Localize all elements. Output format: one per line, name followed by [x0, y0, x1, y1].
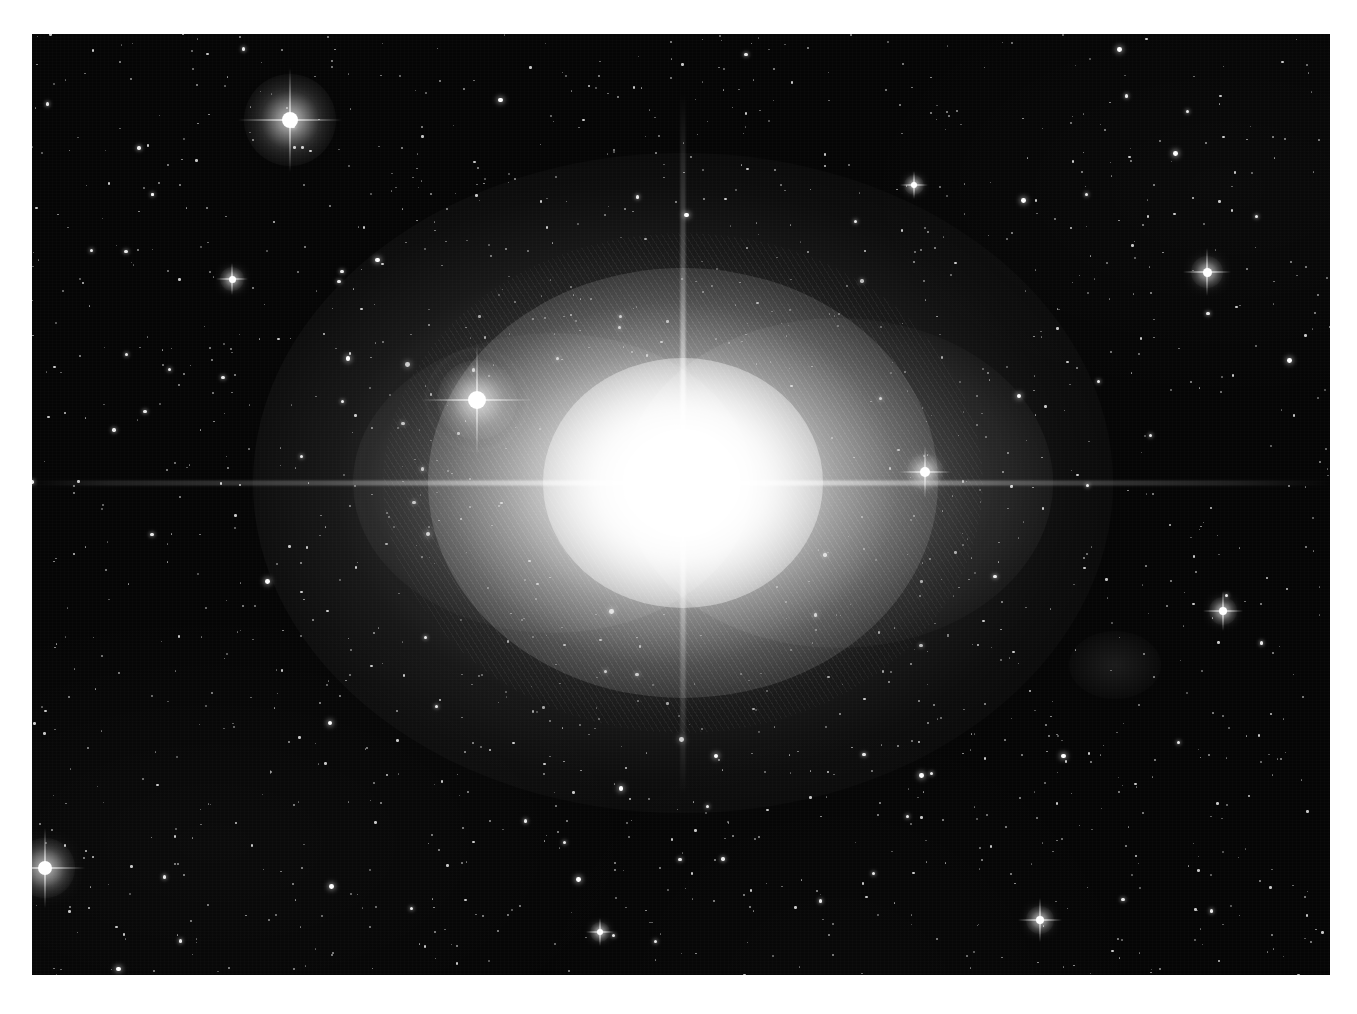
sky-plate: [32, 34, 1330, 975]
bright-star-mid-left-vertical-spike: [231, 263, 233, 295]
bright-star-far-right-horizontal-spike: [1203, 610, 1243, 612]
bright-star-far-right-glow: [1209, 597, 1237, 625]
bright-star-top-mid-vertical-spike: [913, 171, 915, 199]
bright-star-lower-left-glow: [32, 838, 75, 898]
bright-star-bottom-mid-core: [597, 929, 603, 935]
bright-star-lower-left-horizontal-spike: [32, 867, 85, 869]
bright-star-right-arm-glow: [907, 454, 943, 490]
bright-star-right-arm-vertical-spike: [924, 446, 926, 498]
bright-star-right-arm-horizontal-spike: [899, 471, 951, 473]
bright-star-right-arm-core: [920, 467, 930, 477]
bright-star-far-right-core: [1219, 607, 1227, 615]
bright-star-upper-left-glow: [244, 74, 336, 166]
bright-star-upper-right-horizontal-spike: [1183, 271, 1231, 273]
bright-star-lower-right-core: [1036, 916, 1044, 924]
bright-star-lower-right-horizontal-spike: [1018, 919, 1062, 921]
bright-star-mid-left-core: [229, 276, 236, 283]
bright-star-upper-right-glow: [1191, 256, 1223, 288]
bright-star-bottom-mid-horizontal-spike: [586, 931, 614, 933]
bright-star-lower-right-glow: [1026, 906, 1054, 934]
bright-star-mid-left-horizontal-spike: [216, 278, 248, 280]
bright-star-top-mid-horizontal-spike: [900, 184, 928, 186]
bright-star-upper-right-core: [1203, 268, 1212, 277]
bright-star-top-mid-glow: [904, 175, 924, 195]
bright-star-upper-left-horizontal-spike: [238, 119, 342, 121]
bright-star-bottom-mid-glow: [590, 922, 610, 942]
bright-star-far-right-vertical-spike: [1222, 591, 1224, 631]
bright-star-upper-left-core: [282, 112, 298, 128]
bright-star-lower-left-core: [38, 861, 52, 875]
photograph-frame: astronomical-photograph saturated bright…: [0, 0, 1357, 1014]
bright-star-top-mid-core: [911, 182, 917, 188]
bright-star-lower-right-vertical-spike: [1039, 898, 1041, 942]
bright-field-stars-layer: [32, 34, 1330, 975]
bright-star-upper-left-vertical-spike: [289, 68, 291, 172]
bright-star-mid-left-glow: [220, 267, 244, 291]
bright-star-lower-left-vertical-spike: [44, 828, 46, 908]
bright-star-bottom-mid-vertical-spike: [599, 918, 601, 946]
bright-star-upper-right-vertical-spike: [1206, 248, 1208, 296]
